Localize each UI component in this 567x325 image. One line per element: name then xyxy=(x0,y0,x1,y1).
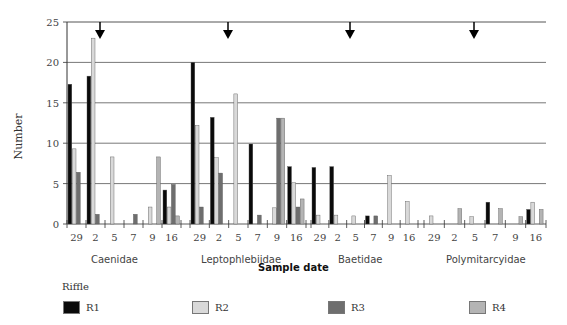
family-label-baetidae: Baetidae xyxy=(338,254,382,265)
bar-r2 xyxy=(352,216,356,224)
x-tick-label: 2 xyxy=(335,232,341,243)
bar-r4 xyxy=(519,217,523,224)
x-tick-label: 7 xyxy=(492,232,498,243)
bar-r4 xyxy=(300,199,304,224)
bar-r2 xyxy=(167,207,171,224)
x-tick-label: 16 xyxy=(290,232,303,243)
bar-r3 xyxy=(76,172,80,224)
bar-r3 xyxy=(199,207,203,224)
bar-r1 xyxy=(330,167,334,224)
y-tick-label: 20 xyxy=(46,57,59,68)
legend-item-r4: R4 xyxy=(469,300,506,314)
bar-r2 xyxy=(388,176,392,224)
legend-item-r2: R2 xyxy=(192,300,229,314)
bar-r2 xyxy=(148,207,152,224)
x-tick-label: 9 xyxy=(274,232,280,243)
y-tick-label: 0 xyxy=(53,219,59,230)
arrow-down-icon xyxy=(223,30,233,39)
x-tick-label: 7 xyxy=(370,232,376,243)
bar-r3 xyxy=(277,118,281,224)
arrow-down-icon xyxy=(95,30,105,39)
legend-swatch-r4 xyxy=(469,301,486,314)
x-tick-label: 2 xyxy=(92,232,98,243)
legend-title: Riffle xyxy=(62,281,89,292)
x-tick-label: 16 xyxy=(165,232,178,243)
bar-r3 xyxy=(95,214,99,224)
bar-r2 xyxy=(110,157,114,224)
bar-r2 xyxy=(91,38,95,224)
bar-r2 xyxy=(72,149,76,224)
bar-r3 xyxy=(219,173,223,224)
x-tick-label: 2 xyxy=(451,232,457,243)
bar-r2 xyxy=(470,217,474,224)
bar-r1 xyxy=(249,144,253,224)
bar-r3 xyxy=(296,207,300,224)
legend-swatch-r2 xyxy=(192,301,209,314)
bar-r2 xyxy=(405,201,409,224)
bar-r2 xyxy=(215,158,219,224)
bar-r4 xyxy=(499,209,503,224)
bar-r2 xyxy=(531,202,535,224)
bar-r2 xyxy=(273,208,277,224)
bar-r4 xyxy=(458,209,462,224)
family-label-polymitarcyidae: Polymitarcyidae xyxy=(446,254,526,265)
x-tick-label: 2 xyxy=(216,232,222,243)
bar-r1 xyxy=(191,62,195,224)
y-tick-label: 10 xyxy=(46,138,59,149)
x-tick-label: 16 xyxy=(403,232,416,243)
legend-swatch-r3 xyxy=(328,301,345,314)
bar-r4 xyxy=(157,157,161,224)
y-tick-label: 25 xyxy=(46,17,59,28)
bar-r1 xyxy=(163,190,167,224)
legend-label-r2: R2 xyxy=(215,302,229,313)
bar-r3 xyxy=(374,216,378,224)
bar-r1 xyxy=(366,216,370,224)
y-tick-label: 5 xyxy=(53,179,59,190)
bar-r4 xyxy=(176,216,180,224)
bar-r1 xyxy=(527,209,531,224)
bar-r3 xyxy=(171,184,175,224)
x-tick-label: 7 xyxy=(254,232,260,243)
bar-r1 xyxy=(87,76,91,224)
legend-swatch-r1 xyxy=(63,301,80,314)
bar-r3 xyxy=(133,214,137,224)
x-tick-label: 9 xyxy=(388,232,394,243)
bar-r2 xyxy=(234,94,238,224)
legend-label-r3: R3 xyxy=(351,302,365,313)
legend-item-r3: R3 xyxy=(328,300,365,314)
bar-r4 xyxy=(539,209,543,224)
bar-r2 xyxy=(316,215,320,224)
x-tick-label: 9 xyxy=(512,232,518,243)
bar-r1 xyxy=(312,167,316,224)
x-tick-label: 9 xyxy=(149,232,155,243)
x-tick-label: 5 xyxy=(235,232,241,243)
bar-r2 xyxy=(292,183,296,224)
x-tick-label: 5 xyxy=(472,232,478,243)
bar-r1 xyxy=(68,84,72,224)
bar-r1 xyxy=(288,167,292,224)
x-tick-label: 29 xyxy=(428,232,441,243)
bar-chart: 0510152025292579162925791629257916292579… xyxy=(0,0,567,325)
x-tick-label: 7 xyxy=(130,232,136,243)
bar-r3 xyxy=(257,215,261,224)
arrow-down-icon xyxy=(345,30,355,39)
y-axis-label: Number xyxy=(12,107,25,167)
x-axis-title: Sample date xyxy=(258,262,329,273)
x-tick-label: 16 xyxy=(529,232,542,243)
legend-label-r4: R4 xyxy=(492,302,506,313)
bar-r2 xyxy=(195,125,199,224)
x-tick-label: 29 xyxy=(193,232,206,243)
y-tick-label: 15 xyxy=(46,98,59,109)
bar-r4 xyxy=(281,118,285,224)
x-tick-label: 5 xyxy=(352,232,358,243)
family-label-caenidae: Caenidae xyxy=(91,254,138,265)
x-tick-label: 29 xyxy=(70,232,83,243)
bar-r1 xyxy=(210,117,214,224)
legend-label-r1: R1 xyxy=(86,302,100,313)
arrow-down-icon xyxy=(469,30,479,39)
bar-r2 xyxy=(334,215,338,224)
legend-item-r1: R1 xyxy=(63,300,100,314)
bar-r1 xyxy=(486,202,490,224)
x-tick-label: 29 xyxy=(314,232,327,243)
x-tick-label: 5 xyxy=(111,232,117,243)
